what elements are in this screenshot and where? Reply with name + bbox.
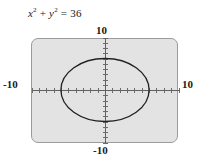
axis-label-right: 10	[182, 78, 193, 90]
figure-container: x2 + y2 = 36 10 -10 -10 10	[0, 0, 207, 162]
circle-path	[61, 59, 149, 122]
equation-caption: x2 + y2 = 36	[28, 7, 82, 19]
axis-label-bottom: -10	[93, 144, 108, 156]
equation-right-hand-side: 36	[70, 7, 81, 19]
axis-label-left: -10	[3, 78, 18, 90]
axis-label-top: 10	[96, 24, 107, 36]
calculator-screen	[31, 38, 178, 143]
circle-curve	[32, 39, 179, 144]
